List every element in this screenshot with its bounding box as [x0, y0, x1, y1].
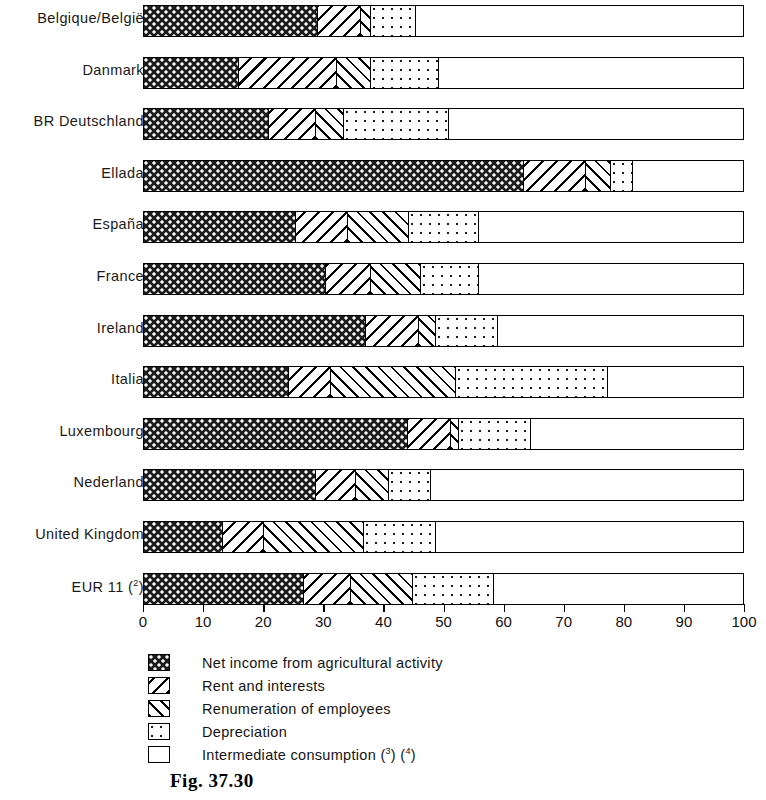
- bar-segment: [371, 6, 416, 36]
- bar-track: [143, 573, 744, 605]
- bar-segment: [364, 522, 436, 552]
- bar-segment: [494, 574, 744, 604]
- axis-tick-label: 80: [604, 613, 644, 630]
- bar-segment: [456, 367, 608, 397]
- axis-tick-label: 40: [363, 613, 403, 630]
- bar-segment: [289, 367, 331, 397]
- bar-category-label: Luxembourg: [0, 423, 144, 439]
- axis-tick: [564, 604, 565, 612]
- bar-row: Luxembourg: [0, 415, 766, 453]
- bar-segment: [451, 419, 459, 449]
- bar-row: BR Deutschland: [0, 105, 766, 143]
- legend-swatch: [148, 723, 170, 740]
- bar-row: Nederland: [0, 466, 766, 504]
- legend-item: Depreciation: [148, 720, 668, 743]
- stacked-bar-chart: Belgique/BelgiëDanmarkBR DeutschlandElla…: [0, 0, 766, 612]
- bar-category-label: Danmark: [0, 62, 144, 78]
- bar-segment: [348, 212, 409, 242]
- bar-segment: [633, 161, 744, 191]
- bar-category-label: EUR 11 (2): [0, 578, 144, 595]
- bar-segment: [436, 522, 744, 552]
- bar-track: [143, 521, 744, 553]
- bar-segment: [436, 316, 498, 346]
- axis-tick-label: 0: [123, 613, 163, 630]
- bar-row: Ireland: [0, 312, 766, 350]
- axis-tick-label: 90: [664, 613, 704, 630]
- bar-track: [143, 211, 744, 243]
- axis-tick-label: 70: [544, 613, 584, 630]
- axis-tick-label: 20: [243, 613, 283, 630]
- legend-label: Depreciation: [202, 724, 287, 740]
- bar-category-label: United Kingdom: [0, 526, 144, 542]
- bar-row: Ellada: [0, 157, 766, 195]
- legend-swatch: [148, 677, 170, 694]
- bar-category-label: France: [0, 268, 144, 284]
- bar-segment: [366, 316, 419, 346]
- bar-segment: [431, 470, 744, 500]
- legend-item: Renumeration of employees: [148, 697, 668, 720]
- bar-track: [143, 263, 744, 295]
- bar-segment: [326, 264, 371, 294]
- legend-label: Rent and interests: [202, 678, 325, 694]
- bar-segment: [408, 419, 451, 449]
- bar-track: [143, 5, 744, 37]
- bar-segment: [144, 161, 524, 191]
- axis-tick-label: 60: [484, 613, 524, 630]
- bar-segment: [361, 6, 371, 36]
- legend-label: Net income from agricultural activity: [202, 655, 443, 671]
- bar-segment: [586, 161, 611, 191]
- legend-item: Intermediate consumption (3) (4): [148, 743, 668, 766]
- bar-segment: [479, 264, 744, 294]
- bar-category-label: BR Deutschland: [0, 113, 144, 129]
- bar-segment: [356, 470, 389, 500]
- bar-segment: [409, 212, 479, 242]
- bar-segment: [531, 419, 744, 449]
- bar-segment: [524, 161, 586, 191]
- x-axis: 0102030405060708090100: [0, 604, 766, 638]
- bar-segment: [296, 212, 348, 242]
- bar-segment: [144, 109, 269, 139]
- bar-segment: [419, 316, 436, 346]
- legend-swatch: [148, 746, 170, 763]
- bar-segment: [144, 470, 316, 500]
- bar-row: Danmark: [0, 54, 766, 92]
- bar-segment: [449, 109, 744, 139]
- bar-row: United Kingdom: [0, 518, 766, 556]
- legend-swatch: [148, 700, 170, 717]
- bar-segment: [318, 6, 361, 36]
- axis-tick-label: 100: [724, 613, 764, 630]
- axis-tick: [143, 604, 144, 612]
- bar-row: EUR 11 (2): [0, 570, 766, 608]
- bar-track: [143, 418, 744, 450]
- legend-label: Renumeration of employees: [202, 701, 391, 717]
- bar-row: España: [0, 208, 766, 246]
- bar-segment: [316, 109, 344, 139]
- chart-legend: Net income from agricultural activityRen…: [148, 651, 668, 766]
- bar-track: [143, 366, 744, 398]
- bar-segment: [331, 367, 456, 397]
- bar-segment: [371, 264, 421, 294]
- axis-tick: [444, 604, 445, 612]
- bar-segment: [304, 574, 351, 604]
- bar-segment: [479, 212, 744, 242]
- bar-track: [143, 160, 744, 192]
- bar-segment: [269, 109, 316, 139]
- bar-segment: [389, 470, 431, 500]
- bar-segment: [459, 419, 531, 449]
- axis-tick: [684, 604, 685, 612]
- bar-segment: [439, 58, 744, 88]
- bar-segment: [144, 6, 318, 36]
- bar-segment: [144, 316, 366, 346]
- axis-tick: [624, 604, 625, 612]
- bar-row: France: [0, 260, 766, 298]
- bar-row: Italia: [0, 363, 766, 401]
- bar-row: Belgique/België: [0, 2, 766, 40]
- bar-segment: [239, 58, 337, 88]
- bar-segment: [351, 574, 414, 604]
- bar-category-label: Belgique/België: [0, 10, 144, 26]
- bar-segment: [498, 316, 744, 346]
- legend-item: Net income from agricultural activity: [148, 651, 668, 674]
- bar-segment: [144, 419, 408, 449]
- axis-tick: [383, 604, 384, 612]
- bar-segment: [144, 574, 304, 604]
